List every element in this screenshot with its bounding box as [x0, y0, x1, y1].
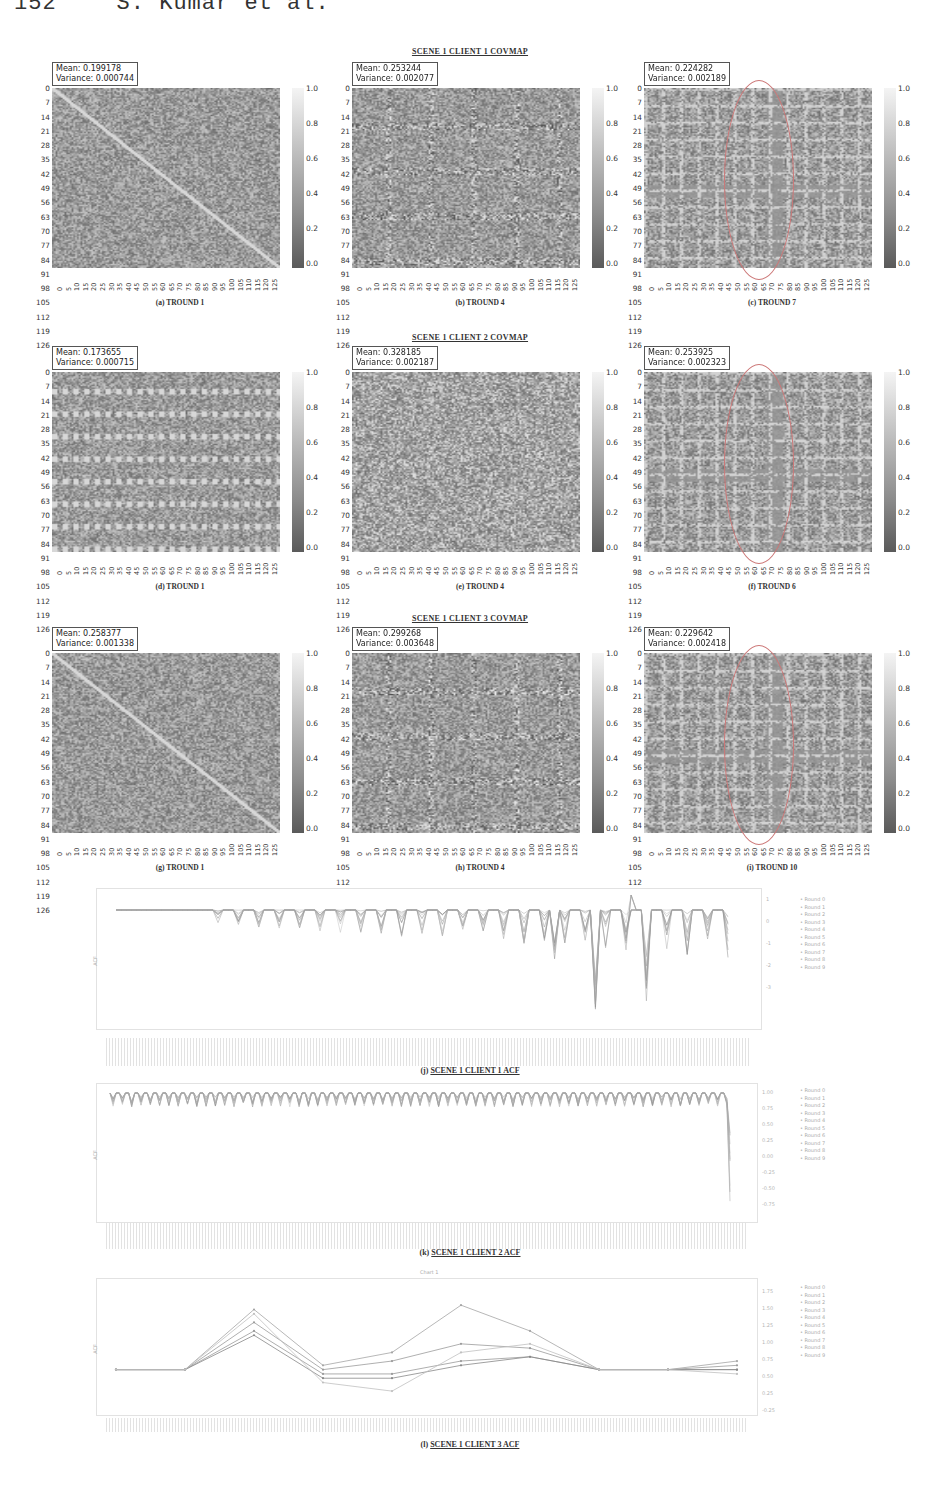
variance-label: Variance: 0.003648 [356, 639, 434, 649]
x-tick: 105 [237, 844, 245, 856]
y-tick: 35 [622, 720, 642, 734]
y-tick: 70 [622, 792, 642, 806]
colorbar [592, 88, 604, 268]
x-tick: 5 [65, 852, 73, 856]
colorbar-tick: 0.2 [306, 224, 318, 233]
stats-box: Mean: 0.328185 Variance: 0.002187 [352, 346, 438, 370]
x-tick: 105 [537, 563, 545, 575]
colorbar-tick: 0.2 [898, 789, 910, 798]
authors: S. Kumar et al. [117, 0, 330, 16]
x-tick: 50 [142, 567, 150, 575]
y-tick: 0 [330, 368, 350, 382]
x-tick: 110 [245, 563, 253, 575]
y-tick: 63 [330, 213, 350, 227]
y-tick: 42 [330, 454, 350, 468]
x-tick: 110 [245, 844, 253, 856]
colorbar-tick: 0.6 [306, 719, 318, 728]
y-tick: 112 [30, 313, 50, 327]
y-tick: 1.00 [762, 1089, 773, 1095]
x-tick: 90 [211, 567, 219, 575]
legend-item: • Round 1 [800, 1095, 825, 1103]
y-tick: 84 [622, 821, 642, 835]
heatmap-panel-f: Mean: 0.253925 Variance: 0.0023230714212… [622, 346, 922, 596]
y-tick: 0 [30, 84, 50, 98]
x-tick: 10 [665, 283, 673, 291]
x-tick: 125 [863, 279, 871, 291]
x-tick: 55 [151, 283, 159, 291]
x-tick: 65 [168, 283, 176, 291]
y-tick: 98 [330, 568, 350, 582]
y-tick: 49 [330, 184, 350, 198]
colorbar-tick: 1.0 [306, 368, 318, 377]
x-tick: 60 [159, 283, 167, 291]
x-tick: 70 [768, 848, 776, 856]
colorbar-tick: 0.8 [606, 684, 618, 693]
y-tick: -0.25 [762, 1407, 775, 1413]
y-tick: 1.00 [762, 1339, 773, 1345]
x-tick: 55 [743, 567, 751, 575]
y-tick: 42 [30, 454, 50, 468]
x-tick: 85 [794, 848, 802, 856]
y-tick: 63 [30, 213, 50, 227]
x-tick: 15 [382, 848, 390, 856]
x-tick: 45 [133, 567, 141, 575]
legend-item: • Round 0 [800, 1087, 825, 1095]
x-tick: 70 [476, 567, 484, 575]
colorbar-tick: 0.0 [898, 543, 910, 552]
x-tick: 115 [846, 844, 854, 856]
y-tick: 14 [30, 113, 50, 127]
y-tick: 28 [30, 706, 50, 720]
y-tick: 112 [622, 597, 642, 611]
y-tick: 21 [330, 692, 350, 706]
legend-item: • Round 4 [800, 926, 825, 934]
y-tick: 0.25 [762, 1137, 773, 1143]
legend-item: • Round 6 [800, 941, 825, 949]
colorbar-tick: 0.4 [898, 754, 910, 763]
x-axis-ticks: 0510152025303540455055606570758085909510… [52, 271, 280, 291]
x-tick: 15 [674, 283, 682, 291]
colorbar-tick: 1.0 [898, 368, 910, 377]
x-tick: 40 [425, 567, 433, 575]
y-tick: 0 [622, 649, 642, 663]
x-axis-ticks: 0510152025303540455055606570758085909510… [352, 555, 580, 575]
x-tick: 70 [476, 283, 484, 291]
colorbar [592, 653, 604, 833]
chart-title: Chart 1 [420, 1269, 439, 1275]
x-tick: 115 [846, 563, 854, 575]
y-tick: 0.50 [762, 1373, 773, 1379]
y-tick: 7 [30, 98, 50, 112]
stats-box: Mean: 0.299268 Variance: 0.003648 [352, 627, 438, 651]
y-tick: 77 [30, 241, 50, 255]
y-tick: 84 [622, 256, 642, 270]
y-tick: 14 [30, 678, 50, 692]
x-tick: 15 [82, 283, 90, 291]
y-tick: 28 [622, 706, 642, 720]
colorbar-tick: 0.6 [606, 154, 618, 163]
mean-label: Mean: 0.224282 [648, 64, 726, 74]
y-axis-ticks: 0714212835424956637077849198105112119126 [30, 368, 50, 556]
y-tick: 63 [30, 778, 50, 792]
stats-box: Mean: 0.253925 Variance: 0.002323 [644, 346, 730, 370]
y-tick: 7 [622, 98, 642, 112]
y-tick: 49 [330, 749, 350, 763]
y-tick: 56 [330, 763, 350, 777]
y-tick: -3 [766, 984, 771, 990]
colorbar-tick: 1.0 [606, 84, 618, 93]
y-axis-ticks: 0714212835424956637077849198105112119126 [330, 649, 350, 837]
y-tick: 98 [622, 284, 642, 298]
colorbar-tick: 0.6 [898, 438, 910, 447]
heatmap-panel-e: Mean: 0.328185 Variance: 0.0021870714212… [330, 346, 630, 596]
x-tick: 15 [82, 567, 90, 575]
x-tick: 65 [760, 848, 768, 856]
colorbar-tick: 0.6 [898, 719, 910, 728]
x-tick: 20 [682, 283, 690, 291]
x-tick: 55 [151, 567, 159, 575]
x-tick: 90 [511, 848, 519, 856]
colorbar-tick: 1.0 [306, 84, 318, 93]
x-tick: 15 [382, 567, 390, 575]
x-tick: 10 [73, 848, 81, 856]
section-title-client1-covmap: SCENE 1 CLIENT 1 COVMAP [0, 47, 940, 56]
x-tick: 80 [494, 567, 502, 575]
mean-label: Mean: 0.253244 [356, 64, 434, 74]
colorbar-tick: 0.2 [606, 789, 618, 798]
